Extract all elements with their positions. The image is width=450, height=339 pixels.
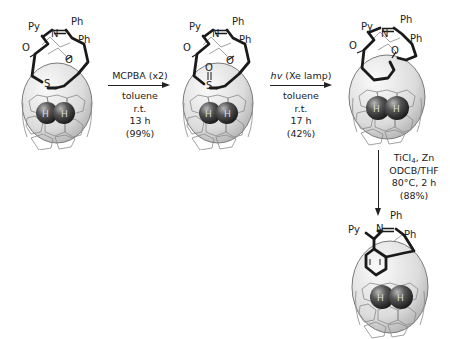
molecule-closed-cage-product: Py N Ph Ph H H [330,205,450,339]
step3-solvent: ODCB/THF [383,165,445,178]
label-ph: Ph [71,17,83,27]
fullerene-cage-icon [330,0,450,150]
label-o: O [391,46,399,56]
step2-hv: hv [271,70,283,81]
step2-solvent: toluene [270,90,332,103]
label-n: N [212,29,219,39]
label-h: H [377,293,384,303]
label-h: H [397,293,404,303]
reaction-arrow-2 [270,85,330,86]
reaction-arrow-1 [108,85,168,86]
label-o: O [65,55,73,65]
label-ph: Ph [78,35,90,45]
label-h: H [373,104,380,114]
molecule-open-cage-sulfoxide: Py N Ph Ph O O O S H H [160,0,275,150]
step2-temp: r.t. [270,103,332,116]
label-ph: Ph [404,230,416,240]
label-ph: Ph [400,15,412,25]
step2-reagent: hv (Xe lamp) [270,70,332,83]
step3-reagent: TiCl4, Zn [383,152,445,165]
label-h: H [393,104,400,114]
label-ph: Ph [232,17,244,27]
label-h: H [205,109,212,119]
label-o: O [22,43,30,53]
label-n: N [376,224,383,234]
label-py: Py [189,22,201,32]
label-o: O [205,63,213,73]
label-ph: Ph [410,34,422,44]
label-h: H [61,109,68,119]
step2-yield: (42%) [270,128,332,141]
step3-temp-time: 80°C, 2 h [383,177,445,190]
step2-lamp: (Xe lamp) [282,70,331,81]
label-o: O [226,56,234,66]
molecule-open-cage-sulfide: Py N Ph Ph O O S H H [0,0,115,150]
label-o: O [349,41,357,51]
label-s: S [44,79,50,89]
label-h: H [224,109,231,119]
label-o: O [183,43,191,53]
label-n: N [381,29,388,39]
step2-conditions: toluene r.t. 17 h (42%) [270,90,332,140]
label-h: H [42,109,49,119]
fullerene-cage-icon [160,0,275,150]
label-py: Py [28,22,40,32]
step3-conditions: TiCl4, Zn ODCB/THF 80°C, 2 h (88%) [383,152,445,202]
label-py: Py [348,225,360,235]
label-s: S [206,81,212,91]
step3-yield: (88%) [383,190,445,203]
label-n: N [51,29,58,39]
label-ph: Ph [390,211,402,221]
label-ph: Ph [239,35,251,45]
molecule-open-cage-diketone: Py N Ph Ph O O H H [330,0,450,150]
fullerene-cage-icon [0,0,115,150]
step2-time: 17 h [270,115,332,128]
label-py: Py [361,22,373,32]
